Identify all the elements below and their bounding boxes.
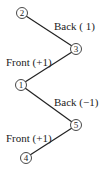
node-2-label: 2 (20, 8, 25, 18)
node-4-label: 4 (24, 153, 29, 163)
node-3-label: 3 (74, 44, 79, 54)
edge-label-back-2: Back (−1) (54, 97, 98, 108)
node-5-label: 5 (74, 120, 79, 130)
node-1-label: 1 (19, 80, 24, 90)
edge-label-front-2: Front (+1) (6, 133, 52, 144)
edge-label-back-1: Back ( 1) (54, 21, 95, 32)
edge-label-front-1: Front (+1) (6, 57, 52, 68)
